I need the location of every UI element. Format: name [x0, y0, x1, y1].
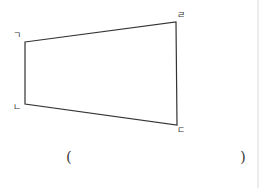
vertex-label-top-right: ㄹ	[177, 11, 185, 20]
close-parenthesis: )	[240, 150, 246, 165]
vertex-label-bottom-right: ㄷ	[177, 126, 185, 135]
open-parenthesis: (	[66, 150, 72, 165]
answer-blank[interactable]	[80, 148, 240, 168]
vertex-label-bottom-left: ㄴ	[13, 103, 21, 112]
vertex-label-top-left: ㄱ	[13, 31, 21, 40]
page-divider	[257, 0, 259, 188]
